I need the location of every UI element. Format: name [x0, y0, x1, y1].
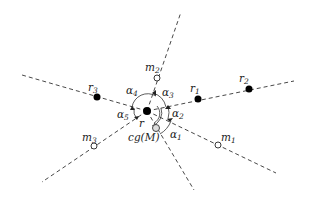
label-m3: m3	[82, 131, 97, 145]
robot-r-center	[143, 107, 151, 115]
marker-m2	[154, 75, 160, 81]
label-alpha3: α3	[162, 86, 174, 100]
label-m2: m2	[145, 61, 160, 75]
label-alpha5: α5	[117, 108, 129, 122]
labels: r cg(M) r1 r2 r3 m1 m2 m3 α1 α2 α3 α4 α5	[82, 61, 249, 145]
label-r3: r3	[88, 81, 98, 95]
ray-to-m1	[147, 111, 276, 173]
label-r: r	[139, 117, 145, 129]
angle-sequence-diagram: r cg(M) r1 r2 r3 m1 m2 m3 α1 α2 α3 α4 α5	[0, 0, 310, 202]
label-alpha1: α1	[170, 128, 182, 142]
label-m1: m1	[221, 131, 236, 145]
label-alpha4: α4	[126, 84, 138, 98]
label-cg: cg(M)	[128, 131, 160, 143]
robot-r2	[246, 86, 253, 93]
label-alpha2: α2	[172, 107, 184, 121]
robot-r1	[195, 96, 202, 103]
label-r2: r2	[239, 72, 249, 86]
rays	[22, 12, 294, 190]
label-r1: r1	[190, 82, 200, 96]
